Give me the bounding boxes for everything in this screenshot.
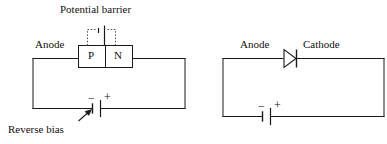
right-circuit-group	[223, 59, 384, 125]
arrow-pointer-icon	[79, 110, 92, 122]
p-region-label: P	[88, 50, 94, 61]
left-battery-positive-sign: +	[104, 91, 111, 103]
left-circuit-group	[33, 46, 185, 117]
potential-barrier-title: Potential barrier	[60, 4, 131, 15]
left-battery-negative-sign: −	[88, 92, 95, 104]
reverse-bias-caption: Reverse bias	[8, 124, 64, 135]
right-anode-label: Anode	[240, 39, 269, 50]
figure-canvas: Potential barrier Anode P N − + Reverse …	[0, 0, 387, 144]
right-battery-negative-sign: −	[258, 100, 265, 112]
depletion-region-icon	[88, 30, 116, 46]
barrier-bracket-right	[108, 30, 116, 46]
diode-icon	[284, 50, 297, 68]
left-anode-label: Anode	[35, 39, 64, 50]
right-battery-positive-sign: +	[274, 99, 281, 111]
barrier-bracket-left	[88, 30, 98, 46]
n-region-label: N	[114, 50, 122, 61]
right-cathode-label: Cathode	[303, 39, 340, 50]
diode-triangle	[284, 50, 296, 68]
